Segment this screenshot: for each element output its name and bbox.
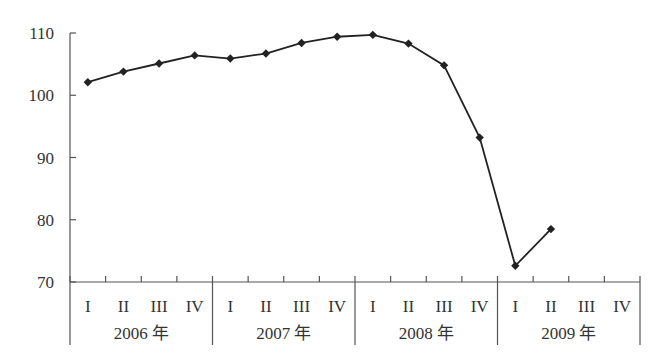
diamond-marker	[155, 59, 163, 67]
y-tick-label: 110	[29, 24, 54, 43]
diamond-marker	[84, 78, 92, 86]
quarter-label: II	[403, 297, 415, 316]
quarter-label: I	[227, 297, 233, 316]
diamond-marker	[475, 133, 483, 141]
diamond-marker	[119, 67, 127, 75]
quarter-label: I	[85, 297, 91, 316]
diamond-marker	[333, 33, 341, 41]
quarter-label: IV	[471, 297, 490, 316]
diamond-marker	[226, 54, 234, 62]
quarter-label: II	[545, 297, 557, 316]
quarter-label: I	[512, 297, 518, 316]
diamond-marker	[262, 49, 270, 57]
quarter-label: IV	[186, 297, 205, 316]
year-label: 2008 年	[399, 324, 454, 343]
y-tick-label: 90	[37, 149, 54, 168]
data-series	[84, 31, 556, 270]
year-label: 2009 年	[541, 324, 596, 343]
quarter-label: III	[436, 297, 453, 316]
year-label: 2007 年	[256, 324, 311, 343]
quarter-label: IV	[613, 297, 632, 316]
quarter-label: III	[151, 297, 168, 316]
quarter-label: II	[118, 297, 130, 316]
x-axis: IIIIIIIV2006 年IIIIIIIV2007 年IIIIIIIV2008…	[70, 276, 640, 345]
y-tick-label: 70	[37, 273, 54, 292]
line-chart: 708090100110 IIIIIIIV2006 年IIIIIIIV2007 …	[0, 0, 671, 362]
diamond-marker	[190, 51, 198, 59]
y-tick-label: 100	[29, 86, 55, 105]
diamond-marker	[404, 39, 412, 47]
diamond-marker	[440, 61, 448, 69]
quarter-label: IV	[328, 297, 347, 316]
diamond-marker	[369, 31, 377, 39]
quarter-label: II	[260, 297, 272, 316]
series-line	[88, 35, 551, 266]
quarter-label: III	[293, 297, 310, 316]
quarter-label: III	[578, 297, 595, 316]
y-axis: 708090100110	[29, 24, 77, 292]
quarter-label: I	[370, 297, 376, 316]
y-tick-label: 80	[37, 211, 54, 230]
diamond-marker	[297, 39, 305, 47]
year-label: 2006 年	[114, 324, 169, 343]
